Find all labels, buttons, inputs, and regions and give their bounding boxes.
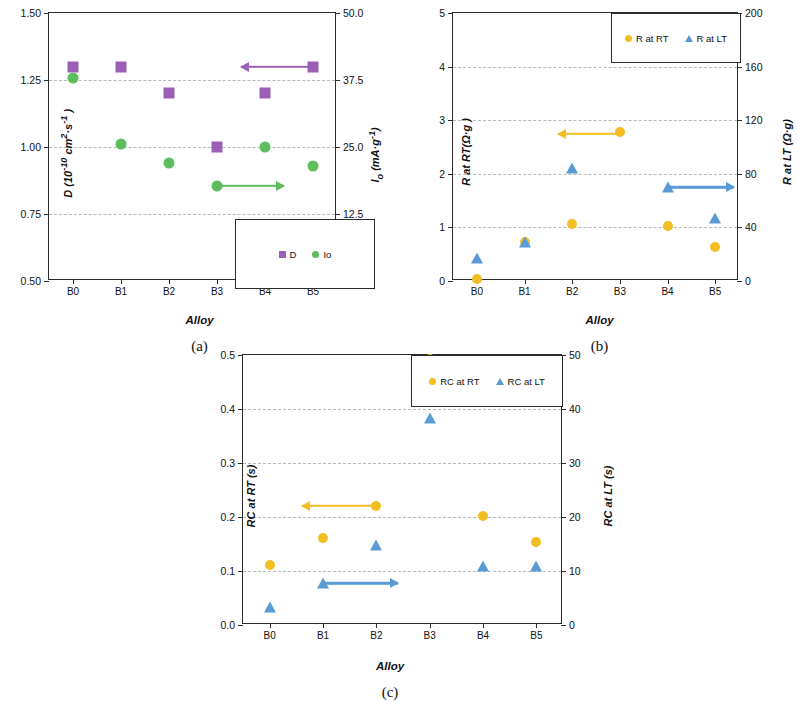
- y-tick-label: 0.50: [21, 275, 41, 287]
- y-tick-label: 0.0: [220, 619, 235, 631]
- data-point: [471, 253, 483, 264]
- chart-legend: RC at RTRC at LT: [411, 355, 563, 407]
- y2-tick-label: 50.0: [343, 7, 363, 19]
- legend-entry: Io: [312, 249, 331, 260]
- y-tick-mark: [448, 227, 453, 228]
- y2-axis-title-a: Io (mA·g-1): [367, 127, 385, 182]
- arrow-shaft: [558, 132, 620, 134]
- x-tick-mark: [376, 623, 377, 628]
- y2-tick-mark: [737, 120, 742, 121]
- y-tick-label: 0.5: [220, 349, 235, 361]
- data-point: [472, 274, 482, 284]
- x-tick-mark: [525, 279, 526, 284]
- y2-tick-label: 80: [745, 168, 757, 180]
- legend-label: Io: [323, 249, 331, 260]
- panel-caption-c: (c): [180, 684, 600, 701]
- y-tick-mark: [238, 463, 243, 464]
- legend-marker-icon: [429, 378, 436, 385]
- legend-label: R at LT: [697, 33, 727, 44]
- y-tick-label: 0.2: [220, 511, 235, 523]
- arrow-head-icon: [240, 62, 249, 72]
- y2-tick-label: 0: [569, 619, 575, 631]
- x-tick-label: B2: [370, 630, 382, 641]
- data-point: [709, 213, 721, 224]
- y2-tick-label: 40: [745, 221, 757, 233]
- x-tick-mark: [572, 279, 573, 284]
- y2-tick-mark: [561, 571, 566, 572]
- y-tick-mark: [44, 214, 49, 215]
- data-point: [519, 237, 531, 248]
- y2-tick-mark: [737, 227, 742, 228]
- x-tick-mark: [483, 623, 484, 628]
- y-tick-label: 1.00: [21, 141, 41, 153]
- y2-tick-mark: [335, 13, 340, 14]
- x-tick-mark: [668, 279, 669, 284]
- x-tick-label: B1: [317, 630, 329, 641]
- y-tick-label: 1.50: [21, 7, 41, 19]
- x-tick-mark: [169, 279, 170, 284]
- x-axis-title-c: Alloy: [180, 660, 600, 672]
- y-tick-mark: [44, 147, 49, 148]
- data-point: [530, 561, 542, 572]
- y2-tick-label: 0: [745, 275, 751, 287]
- x-tick-label: B0: [67, 286, 79, 297]
- x-tick-mark: [217, 279, 218, 284]
- x-tick-label: B3: [424, 630, 436, 641]
- x-tick-mark: [536, 623, 537, 628]
- legend-label: RC at RT: [440, 376, 479, 387]
- y-tick-mark: [44, 80, 49, 81]
- data-point: [477, 561, 489, 572]
- arrow-shaft: [241, 65, 313, 67]
- y-tick-label: 5: [439, 7, 445, 19]
- plot-area-a: 0.500.751.001.251.500.012.525.037.550.0B…: [48, 12, 336, 280]
- gridline: [49, 214, 335, 215]
- gridline: [243, 517, 561, 518]
- y-tick-label: 0: [439, 275, 445, 287]
- y-tick-mark: [44, 13, 49, 14]
- y-tick-label: 4: [439, 61, 445, 73]
- legend-label: R at RT: [636, 33, 669, 44]
- data-point: [260, 142, 271, 153]
- y-tick-mark: [448, 281, 453, 282]
- legend-marker-icon: [496, 378, 504, 385]
- x-tick-label: B2: [163, 286, 175, 297]
- chart-panel-a: 0.500.751.001.251.500.012.525.037.550.0B…: [0, 0, 399, 340]
- data-point: [531, 537, 541, 547]
- data-point: [116, 61, 127, 72]
- y-tick-label: 0.4: [220, 403, 235, 415]
- y-tick-label: 1.25: [21, 74, 41, 86]
- x-tick-label: B0: [264, 630, 276, 641]
- y2-tick-mark: [335, 80, 340, 81]
- legend-marker-icon: [685, 35, 693, 42]
- y2-tick-label: 37.5: [343, 74, 363, 86]
- data-point: [370, 540, 382, 551]
- y2-tick-mark: [335, 214, 340, 215]
- legend-entry: RC at LT: [496, 376, 545, 387]
- data-point: [424, 413, 436, 424]
- y2-tick-label: 25.0: [343, 141, 363, 153]
- arrow-shaft: [217, 184, 284, 186]
- x-tick-label: B2: [566, 286, 578, 297]
- y-tick-label: 0.1: [220, 565, 235, 577]
- data-point: [68, 73, 79, 84]
- y-tick-label: 3: [439, 114, 445, 126]
- arrow-shaft: [302, 504, 377, 506]
- gridline: [243, 463, 561, 464]
- data-point: [478, 511, 488, 521]
- x-tick-label: B4: [477, 630, 489, 641]
- y2-tick-label: 200: [745, 7, 763, 19]
- x-tick-mark: [430, 623, 431, 628]
- legend-marker-icon: [279, 251, 286, 258]
- x-tick-mark: [73, 279, 74, 284]
- y2-tick-mark: [561, 463, 566, 464]
- y-tick-mark: [238, 355, 243, 356]
- x-tick-label: B5: [530, 630, 542, 641]
- gridline: [453, 120, 737, 121]
- y2-tick-label: 160: [745, 61, 763, 73]
- y2-tick-mark: [561, 625, 566, 626]
- y2-tick-mark: [561, 517, 566, 518]
- y2-tick-label: 30: [569, 457, 581, 469]
- data-point: [567, 219, 577, 229]
- gridline: [49, 80, 335, 81]
